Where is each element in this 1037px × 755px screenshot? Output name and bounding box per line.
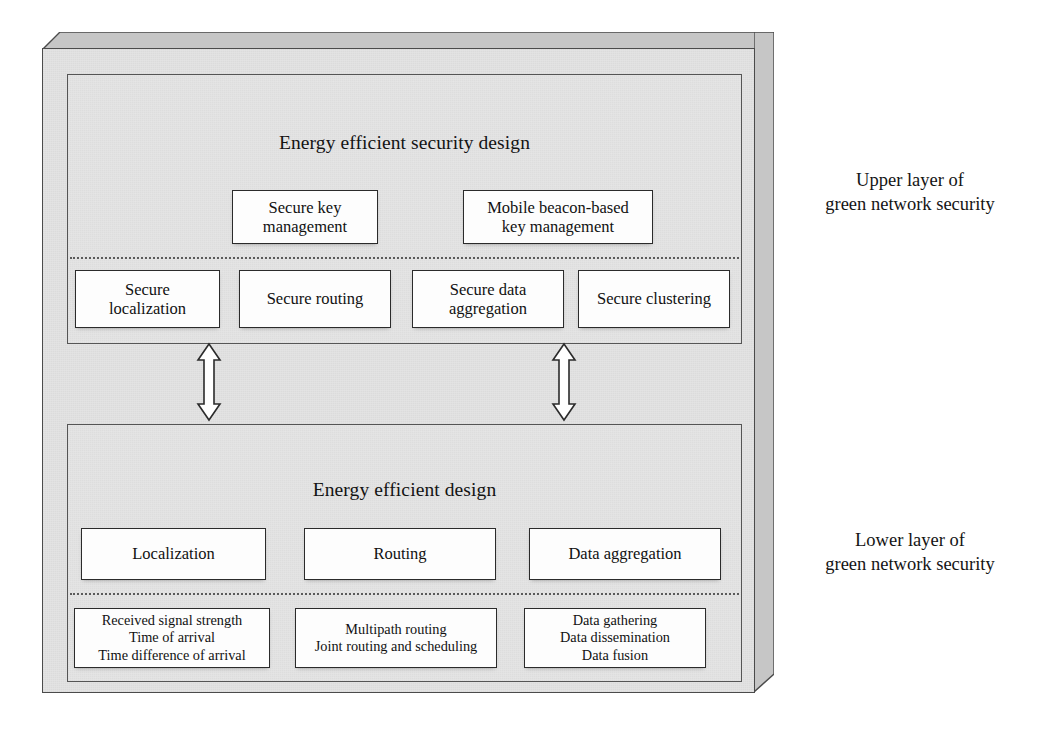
node-line1: Localization (132, 544, 214, 563)
caption-line1: Upper layer of (856, 170, 964, 190)
node-line3: Data fusion (582, 647, 648, 663)
node-text: Mobile beacon-based key management (487, 198, 629, 237)
node-secure-key-management[interactable]: Secure key management (232, 190, 378, 244)
lower-layer-dotted-divider (70, 593, 739, 595)
lower-layer-title: Energy efficient design (68, 479, 741, 501)
node-text: Secure data aggregation (449, 280, 527, 319)
node-line1: Secure routing (267, 289, 364, 308)
node-text: Multipath routing Joint routing and sche… (315, 621, 477, 656)
node-line2: management (263, 217, 347, 236)
node-data-aggregation[interactable]: Data aggregation (529, 528, 721, 580)
node-line1: Routing (373, 544, 426, 563)
node-localization-techniques[interactable]: Received signal strength Time of arrival… (74, 608, 270, 668)
node-secure-localization[interactable]: Secure localization (75, 270, 220, 328)
caption-line2: green network security (825, 554, 995, 574)
node-mobile-beacon-based-key-management[interactable]: Mobile beacon-based key management (463, 190, 653, 244)
upper-layer-dotted-divider (70, 257, 739, 259)
node-secure-clustering[interactable]: Secure clustering (578, 270, 730, 328)
node-line2: Time of arrival (129, 629, 215, 645)
slab-right-face (754, 32, 774, 692)
upper-layer-title: Energy efficient security design (68, 132, 741, 154)
node-line2: localization (109, 299, 186, 318)
double-arrow-icon-left (196, 342, 222, 422)
node-line1: Mobile beacon-based (487, 198, 629, 217)
node-line1: Data aggregation (568, 544, 681, 563)
figure-canvas: Energy efficient security design Secure … (0, 0, 1037, 755)
node-line1: Secure key (269, 198, 342, 217)
node-text: Received signal strength Time of arrival… (98, 612, 245, 664)
node-localization[interactable]: Localization (81, 528, 266, 580)
node-line2: aggregation (449, 299, 527, 318)
node-line1: Multipath routing (345, 621, 446, 637)
node-line1: Secure clustering (597, 289, 711, 308)
caption-line1: Lower layer of (855, 530, 965, 550)
caption-line2: green network security (825, 194, 995, 214)
node-routing[interactable]: Routing (304, 528, 496, 580)
node-text: Data gathering Data dissemination Data f… (560, 612, 670, 664)
node-text: Secure key management (263, 198, 347, 237)
node-data-aggregation-techniques[interactable]: Data gathering Data dissemination Data f… (524, 608, 706, 668)
node-line1: Secure (125, 280, 170, 299)
node-routing-techniques[interactable]: Multipath routing Joint routing and sche… (295, 608, 497, 668)
node-secure-routing[interactable]: Secure routing (239, 270, 391, 328)
node-secure-data-aggregation[interactable]: Secure data aggregation (412, 270, 564, 328)
node-line1: Data gathering (573, 612, 658, 628)
upper-layer-caption: Upper layer of green network security (800, 168, 1020, 217)
node-line2: Joint routing and scheduling (315, 638, 477, 654)
node-line2: Data dissemination (560, 629, 670, 645)
node-text: Secure localization (109, 280, 186, 319)
node-line2: key management (502, 217, 614, 236)
node-line1: Secure data (450, 280, 527, 299)
double-arrow-icon-right (551, 342, 577, 422)
node-line3: Time difference of arrival (98, 647, 245, 663)
node-line1: Received signal strength (102, 612, 243, 628)
lower-layer-caption: Lower layer of green network security (800, 528, 1020, 577)
